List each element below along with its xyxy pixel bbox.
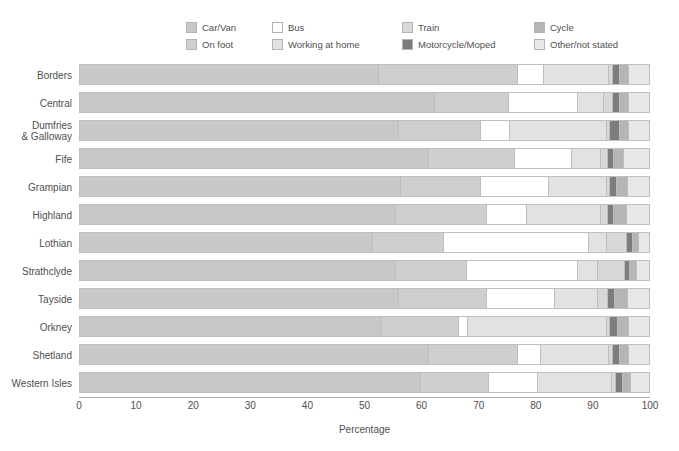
- bar-segment[interactable]: [429, 149, 514, 168]
- bar-segment[interactable]: [608, 205, 615, 224]
- bar-segment[interactable]: [629, 121, 649, 140]
- bar-segment[interactable]: [608, 149, 615, 168]
- bar-segment[interactable]: [549, 177, 606, 196]
- bar-segment[interactable]: [544, 65, 610, 84]
- bar-segment[interactable]: [421, 373, 489, 392]
- bar-segment[interactable]: [598, 261, 624, 280]
- bar-segment[interactable]: [80, 149, 429, 168]
- stacked-bar[interactable]: [79, 316, 650, 337]
- bar-segment[interactable]: [518, 65, 544, 84]
- bar-segment[interactable]: [80, 93, 435, 112]
- bar-segment[interactable]: [613, 93, 620, 112]
- stacked-bar[interactable]: [79, 372, 650, 393]
- legend-item[interactable]: Train: [402, 19, 534, 36]
- bar-segment[interactable]: [620, 345, 629, 364]
- bar-segment[interactable]: [80, 317, 382, 336]
- stacked-bar[interactable]: [79, 120, 650, 141]
- bar-segment[interactable]: [620, 93, 629, 112]
- legend-item[interactable]: Motorcycle/Moped: [402, 36, 534, 53]
- bar-segment[interactable]: [509, 93, 577, 112]
- bar-segment[interactable]: [515, 149, 572, 168]
- bar-segment[interactable]: [629, 93, 649, 112]
- bar-segment[interactable]: [538, 373, 612, 392]
- legend-item[interactable]: Cycle: [534, 19, 654, 36]
- bar-segment[interactable]: [628, 289, 649, 308]
- bar-segment[interactable]: [527, 205, 601, 224]
- bar-segment[interactable]: [481, 121, 510, 140]
- bar-segment[interactable]: [382, 317, 459, 336]
- bar-segment[interactable]: [610, 317, 618, 336]
- legend-item[interactable]: Car/Van: [186, 19, 272, 36]
- bar-segment[interactable]: [624, 149, 649, 168]
- bar-segment[interactable]: [614, 205, 626, 224]
- bar-segment[interactable]: [487, 289, 555, 308]
- bar-segment[interactable]: [459, 317, 468, 336]
- bar-segment[interactable]: [617, 177, 628, 196]
- legend-item[interactable]: Bus: [272, 19, 402, 36]
- bar-segment[interactable]: [610, 177, 617, 196]
- legend-item[interactable]: On foot: [186, 36, 272, 53]
- stacked-bar[interactable]: [79, 204, 650, 225]
- stacked-bar[interactable]: [79, 176, 650, 197]
- stacked-bar[interactable]: [79, 288, 650, 309]
- bar-segment[interactable]: [620, 65, 629, 84]
- bar-segment[interactable]: [80, 289, 399, 308]
- bar-segment[interactable]: [627, 205, 649, 224]
- bar-segment[interactable]: [444, 233, 588, 252]
- bar-segment[interactable]: [541, 345, 609, 364]
- bar-segment[interactable]: [613, 345, 620, 364]
- bar-segment[interactable]: [510, 121, 607, 140]
- bar-segment[interactable]: [615, 289, 627, 308]
- bar-segment[interactable]: [518, 345, 541, 364]
- bar-segment[interactable]: [618, 317, 629, 336]
- stacked-bar[interactable]: [79, 260, 650, 281]
- bar-segment[interactable]: [80, 373, 421, 392]
- bar-segment[interactable]: [604, 93, 613, 112]
- bar-segment[interactable]: [601, 149, 608, 168]
- bar-segment[interactable]: [631, 373, 649, 392]
- bar-segment[interactable]: [637, 261, 649, 280]
- bar-segment[interactable]: [629, 317, 649, 336]
- bar-segment[interactable]: [598, 289, 607, 308]
- stacked-bar[interactable]: [79, 148, 650, 169]
- bar-segment[interactable]: [629, 345, 649, 364]
- bar-segment[interactable]: [607, 233, 628, 252]
- stacked-bar[interactable]: [79, 232, 650, 253]
- stacked-bar[interactable]: [79, 344, 650, 365]
- bar-segment[interactable]: [572, 149, 601, 168]
- bar-segment[interactable]: [601, 205, 608, 224]
- bar-segment[interactable]: [623, 373, 631, 392]
- bar-segment[interactable]: [613, 65, 620, 84]
- bar-segment[interactable]: [396, 205, 487, 224]
- bar-segment[interactable]: [80, 177, 401, 196]
- bar-segment[interactable]: [481, 177, 549, 196]
- bar-segment[interactable]: [630, 261, 637, 280]
- bar-segment[interactable]: [639, 233, 649, 252]
- bar-segment[interactable]: [608, 289, 616, 308]
- bar-segment[interactable]: [401, 177, 481, 196]
- bar-segment[interactable]: [80, 261, 396, 280]
- bar-segment[interactable]: [399, 121, 481, 140]
- bar-segment[interactable]: [628, 177, 649, 196]
- bar-segment[interactable]: [629, 65, 649, 84]
- bar-segment[interactable]: [589, 233, 607, 252]
- bar-segment[interactable]: [614, 149, 623, 168]
- bar-segment[interactable]: [610, 121, 619, 140]
- bar-segment[interactable]: [578, 261, 599, 280]
- bar-segment[interactable]: [620, 121, 629, 140]
- bar-segment[interactable]: [80, 345, 429, 364]
- stacked-bar[interactable]: [79, 92, 650, 113]
- bar-segment[interactable]: [379, 65, 518, 84]
- bar-segment[interactable]: [80, 121, 399, 140]
- bar-segment[interactable]: [80, 205, 396, 224]
- bar-segment[interactable]: [555, 289, 598, 308]
- bar-segment[interactable]: [373, 233, 444, 252]
- bar-segment[interactable]: [468, 317, 607, 336]
- bar-segment[interactable]: [578, 93, 604, 112]
- bar-segment[interactable]: [435, 93, 509, 112]
- bar-segment[interactable]: [396, 261, 467, 280]
- bar-segment[interactable]: [429, 345, 517, 364]
- bar-segment[interactable]: [80, 233, 373, 252]
- bar-segment[interactable]: [487, 205, 527, 224]
- bar-segment[interactable]: [80, 65, 379, 84]
